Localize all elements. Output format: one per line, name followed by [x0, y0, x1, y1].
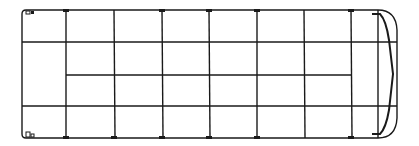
- vertical-member: [162, 10, 163, 138]
- bus-frame-drawing: [0, 0, 419, 146]
- vertical-member: [304, 10, 305, 138]
- diagram-canvas: [0, 0, 419, 146]
- corner-details: [26, 11, 34, 137]
- vertical-member: [209, 10, 210, 138]
- vertical-member: [351, 10, 352, 138]
- vertical-member: [114, 10, 115, 138]
- windshield-frame: [372, 14, 393, 134]
